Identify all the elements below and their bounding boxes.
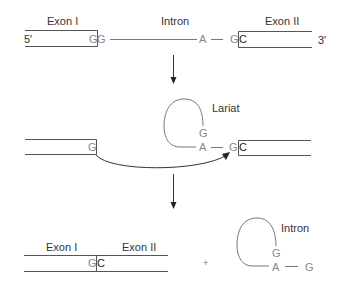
intron-label: Intron [161,15,189,27]
excised-tail-g: G [305,261,314,273]
exon-2-start-nucleotide: C [239,33,247,45]
exon-1-box-stage-2 [25,140,97,155]
down-arrow-1 [171,55,177,84]
three-prime-label: 3′ [318,34,326,46]
excised-lariat-g: G [272,247,281,259]
exon-1-label: Exon I [47,15,78,27]
excised-intron-label: Intron [281,222,309,234]
spliced-exon-1-label: Exon I [46,241,77,253]
ligation-curved-arrow [96,155,227,168]
excised-lariat-a: A [272,261,280,273]
curved-arrowhead [222,152,230,160]
exon-2-start-nucleotide-stage-2: C [239,141,247,153]
down-arrow-2 [171,174,177,209]
spliced-exon-2-label: Exon II [122,241,156,253]
branch-point-a: A [199,33,207,45]
splicing-diagram: Exon I Intron Exon II 5′ G G A G C 3′ La… [0,0,341,287]
stage-1-pre-mrna: Exon I Intron Exon II 5′ G G A G C 3′ [24,15,326,48]
exon-2-box-stage-2 [239,141,312,156]
excised-lariat-loop [237,218,276,266]
lariat-loop [164,99,203,147]
stage-3-products: Exon I Exon II G C + Intron G A G [24,218,314,273]
intron-end-nucleotide-stage-2: G [229,141,238,153]
lariat-g: G [199,127,208,139]
junction-g: G [88,257,97,269]
lariat-a: A [199,141,207,153]
five-prime-label: 5′ [24,33,32,45]
intron-end-nucleotide: G [230,33,239,45]
exon-2-box [239,32,313,48]
exon-1-end-nucleotide-stage-2: G [88,141,97,153]
junction-c: C [97,257,105,269]
intron-start-nucleotide: G [97,33,106,45]
exon-2-label: Exon II [265,15,299,27]
stage-2-lariat: Lariat G G A G C [25,99,311,168]
lariat-label: Lariat [212,102,240,114]
exon-1-box [25,31,98,47]
plus-sign: + [203,258,208,268]
